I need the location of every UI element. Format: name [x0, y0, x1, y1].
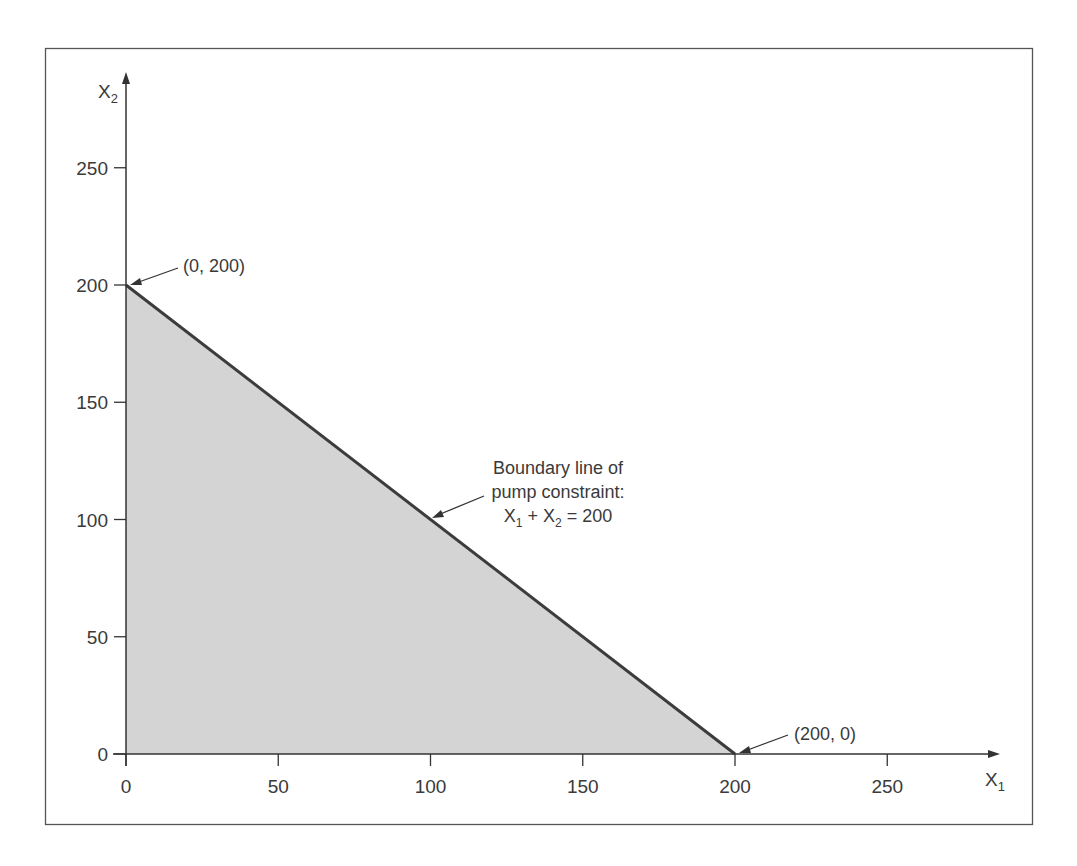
- x-tick-label: 0: [121, 776, 132, 797]
- x-axis-arrow-icon: [988, 750, 1000, 758]
- x-tick-label: 200: [719, 776, 751, 797]
- point-label-top: (0, 200): [183, 256, 245, 276]
- x-axis-title: X1: [985, 769, 1005, 794]
- constraint-chart: 050100150200250050100150200250 X2 X1 (0,…: [0, 0, 1077, 866]
- point-label-right: (200, 0): [794, 724, 856, 744]
- y-tick-label: 200: [76, 275, 108, 296]
- annotation-boundary-line: Boundary line of pump constraint: X1 + X…: [432, 458, 625, 530]
- y-tick-label: 150: [76, 392, 108, 413]
- y-axis-arrow-icon: [122, 72, 130, 84]
- x-tick-label: 100: [415, 776, 447, 797]
- annotation-point-200-0: (200, 0): [739, 724, 856, 753]
- plot-area: [126, 285, 735, 754]
- y-tick-label: 100: [76, 510, 108, 531]
- y-axis-title: X2: [98, 81, 118, 106]
- boundary-equation: X1 + X2 = 200: [504, 506, 612, 530]
- arrow-head-icon: [432, 510, 444, 518]
- y-tick-label: 50: [87, 627, 108, 648]
- y-tick-label: 0: [97, 744, 108, 765]
- x-tick-label: 150: [567, 776, 599, 797]
- boundary-label-line2: pump constraint:: [491, 482, 624, 502]
- y-tick-label: 250: [76, 158, 108, 179]
- annotation-point-0-200: (0, 200): [130, 256, 245, 285]
- x-tick-label: 50: [268, 776, 289, 797]
- arrow-head-icon: [739, 746, 751, 753]
- boundary-label-line1: Boundary line of: [493, 458, 624, 478]
- x-tick-label: 250: [871, 776, 903, 797]
- arrow-head-icon: [130, 278, 142, 285]
